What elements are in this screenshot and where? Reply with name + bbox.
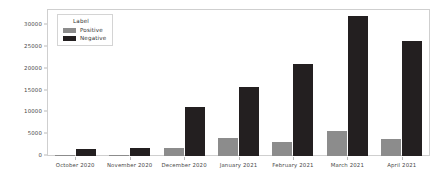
y-tick-label: 20000 <box>24 65 42 71</box>
legend-swatch-positive <box>63 28 76 33</box>
legend: Label Positive Negative <box>57 14 113 46</box>
y-axis: 050001000015000200002500030000 <box>0 9 47 156</box>
bar-positive-3 <box>218 138 238 156</box>
x-tick-mark <box>75 157 76 160</box>
bar-negative-4 <box>293 64 313 156</box>
x-tick-label: October 2020 <box>56 162 95 168</box>
y-tick-label: 25000 <box>24 43 42 49</box>
x-tick-label: December 2020 <box>161 162 206 168</box>
y-tick-label: 0 <box>38 152 42 158</box>
x-tick-label: November 2020 <box>107 162 152 168</box>
x-tick-label: February 2021 <box>272 162 313 168</box>
bar-negative-3 <box>239 87 259 156</box>
x-tick-mark <box>347 157 348 160</box>
bar-positive-5 <box>327 131 347 156</box>
legend-title: Label <box>73 18 106 24</box>
x-tick-mark <box>293 157 294 160</box>
x-tick-mark <box>402 157 403 160</box>
legend-item-positive: Positive <box>63 27 106 33</box>
legend-label-positive: Positive <box>80 27 103 33</box>
bar-negative-2 <box>185 107 205 156</box>
bar-chart: 050001000015000200002500030000 October 2… <box>0 0 440 178</box>
x-tick-label: March 2021 <box>331 162 364 168</box>
bar-negative-0 <box>76 149 96 156</box>
bar-positive-6 <box>381 139 401 156</box>
bar-positive-2 <box>164 148 184 156</box>
legend-swatch-negative <box>63 36 76 41</box>
y-tick-label: 30000 <box>24 21 42 27</box>
bar-positive-4 <box>272 142 292 156</box>
bar-positive-0 <box>55 155 75 156</box>
legend-item-negative: Negative <box>63 35 106 41</box>
y-tick-label: 10000 <box>24 108 42 114</box>
bar-negative-1 <box>130 148 150 156</box>
x-axis: October 2020November 2020December 2020Ja… <box>47 157 430 178</box>
x-tick-label: April 2021 <box>387 162 416 168</box>
x-tick-mark <box>130 157 131 160</box>
legend-label-negative: Negative <box>80 35 106 41</box>
bar-negative-6 <box>402 41 422 156</box>
x-tick-mark <box>184 157 185 160</box>
bar-positive-1 <box>109 155 129 156</box>
x-tick-mark <box>239 157 240 160</box>
y-tick-label: 15000 <box>24 87 42 93</box>
x-tick-label: January 2021 <box>220 162 258 168</box>
bar-negative-5 <box>348 16 368 156</box>
y-tick-label: 5000 <box>28 130 42 136</box>
